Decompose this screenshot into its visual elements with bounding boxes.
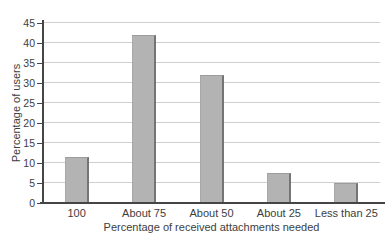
y-tick-label: 30	[9, 78, 35, 88]
plot-area	[43, 23, 380, 203]
gridline	[43, 22, 380, 23]
x-axis-line	[40, 202, 385, 204]
bar-About 50	[200, 75, 224, 203]
bar-About 25	[267, 173, 291, 203]
gridline	[43, 42, 380, 43]
gridline	[43, 62, 380, 63]
y-tick-label: 20	[9, 118, 35, 128]
x-axis-title: Percentage of received attachments neede…	[43, 221, 380, 233]
y-tick-label: 10	[9, 158, 35, 168]
y-tick-label: 5	[9, 178, 35, 188]
x-tick-label: Less than 25	[301, 207, 390, 219]
bar-Less than 25	[334, 183, 358, 203]
bar-100	[65, 157, 89, 203]
bar-chart-figure: Percentage of users 051015202530354045 1…	[0, 0, 390, 242]
y-tick-label: 25	[9, 98, 35, 108]
bar-About 75	[132, 35, 156, 203]
y-axis-line	[42, 20, 44, 203]
y-tick-label: 45	[9, 18, 35, 28]
y-tick-label: 35	[9, 58, 35, 68]
y-tick-label: 40	[9, 38, 35, 48]
y-tick-label: 15	[9, 138, 35, 148]
